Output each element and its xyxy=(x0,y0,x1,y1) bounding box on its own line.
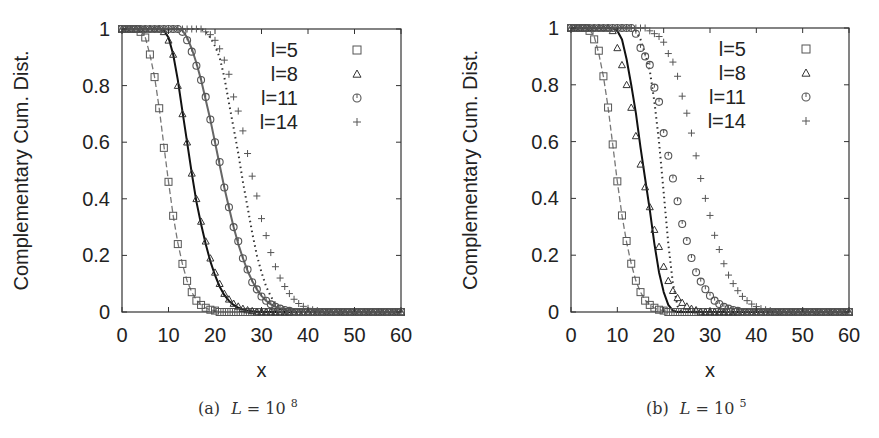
circle-marker xyxy=(660,130,667,137)
y-axis-label: Complementary Cum. Dist. xyxy=(459,50,481,290)
x-tick-label: 10 xyxy=(157,324,179,346)
plus-marker xyxy=(291,296,298,303)
plus-marker xyxy=(730,280,737,287)
circle-marker xyxy=(193,62,200,69)
caption-exp: 5 xyxy=(740,397,747,410)
triangle-marker xyxy=(802,69,810,76)
x-tick-label: 50 xyxy=(343,324,365,346)
plus-marker xyxy=(281,283,288,290)
plus-marker xyxy=(277,275,284,282)
circle-marker xyxy=(702,286,709,293)
circle-marker xyxy=(688,255,695,262)
series-l-11 xyxy=(119,26,405,316)
legend-label: l=14 xyxy=(260,111,298,133)
circle-marker xyxy=(642,53,649,60)
x-tick-label: 40 xyxy=(745,324,767,346)
y-tick-label: 0.4 xyxy=(531,187,559,209)
circle-marker xyxy=(802,93,810,101)
plus-marker xyxy=(249,173,256,180)
plus-marker xyxy=(263,232,270,239)
y-tick-label: 0.6 xyxy=(531,131,559,153)
circle-marker xyxy=(263,297,270,304)
circle-marker xyxy=(249,279,256,286)
legend-label: l=5 xyxy=(719,38,746,60)
legend-label: l=11 xyxy=(709,86,746,108)
legend-label: l=5 xyxy=(271,39,298,61)
x-tick-label: 10 xyxy=(606,324,628,346)
triangle-marker xyxy=(665,277,672,283)
plus-marker xyxy=(258,215,265,222)
plus-marker xyxy=(286,290,293,297)
plus-marker xyxy=(660,39,667,46)
plus-marker xyxy=(272,263,279,270)
circle-marker xyxy=(656,98,663,105)
x-tick-labels: 0102030405060 xyxy=(565,324,860,346)
y-tick-label: 0.6 xyxy=(82,131,110,153)
y-tick-label: 1 xyxy=(548,17,559,39)
plus-marker xyxy=(716,246,723,253)
circle-marker xyxy=(693,269,700,276)
circle-marker xyxy=(253,286,260,293)
plus-marker xyxy=(802,117,810,125)
x-tick-label: 60 xyxy=(390,324,412,346)
x-tick-label: 30 xyxy=(699,324,721,346)
plus-marker xyxy=(674,73,681,80)
square-marker xyxy=(637,289,644,296)
legend-label: l=14 xyxy=(708,110,746,132)
triangle-marker xyxy=(669,287,676,293)
plus-marker xyxy=(353,118,361,126)
x-tick-label: 60 xyxy=(838,324,860,346)
legend-label: l=11 xyxy=(261,87,298,109)
plus-marker xyxy=(734,287,741,294)
caption-var: L xyxy=(230,399,242,418)
y-tick-label: 0.4 xyxy=(82,188,110,210)
x-tick-label: 40 xyxy=(297,324,319,346)
data-markers xyxy=(568,25,853,316)
circle-marker xyxy=(188,48,195,55)
plus-marker xyxy=(267,249,274,256)
y-tick-label: 0.8 xyxy=(531,74,559,96)
square-marker xyxy=(802,45,810,53)
circle-marker xyxy=(697,278,704,285)
figure: 0102030405060 00.20.40.60.81 x Complemen… xyxy=(0,0,879,438)
caption-exp: 8 xyxy=(291,397,298,410)
circle-marker xyxy=(674,198,681,205)
square-marker xyxy=(188,289,195,296)
legend-label: l=8 xyxy=(271,63,298,85)
x-tick-label: 0 xyxy=(116,324,127,346)
series-l-8 xyxy=(568,25,853,315)
plus-marker xyxy=(683,110,690,117)
triangle-marker xyxy=(353,70,361,77)
panel-b: 0102030405060 00.20.40.60.81 x Complemen… xyxy=(459,17,860,418)
x-tick-label: 20 xyxy=(204,324,226,346)
x-tick-label: 0 xyxy=(565,324,576,346)
series-l-14 xyxy=(568,25,853,316)
triangle-marker xyxy=(656,243,663,249)
plus-marker xyxy=(725,272,732,279)
y-tick-labels: 00.20.40.60.81 xyxy=(82,18,110,323)
circle-marker xyxy=(646,61,653,68)
caption: (a) L = 10 8 xyxy=(198,397,298,418)
y-tick-label: 0.8 xyxy=(82,75,110,97)
caption-eq: = 10 xyxy=(696,399,735,418)
triangle-marker xyxy=(660,263,667,269)
x-tick-labels: 0102030405060 xyxy=(116,324,412,346)
plus-marker xyxy=(739,293,746,300)
fit-line-l-14 xyxy=(122,29,401,312)
triangle-marker xyxy=(618,61,625,67)
circle-marker xyxy=(258,293,265,300)
circle-marker xyxy=(184,37,191,44)
triangle-marker xyxy=(614,44,621,50)
plus-marker xyxy=(711,232,718,239)
plus-marker xyxy=(669,59,676,66)
circle-marker xyxy=(734,307,741,314)
plus-marker xyxy=(216,45,223,52)
series-l-5 xyxy=(568,25,853,316)
square-marker xyxy=(353,46,361,54)
triangle-marker xyxy=(679,299,686,305)
y-tick-label: 0 xyxy=(548,301,559,323)
x-tick-label: 20 xyxy=(653,324,675,346)
plus-marker xyxy=(720,260,727,267)
x-axis-label: x xyxy=(705,359,715,381)
plus-marker xyxy=(253,192,260,199)
